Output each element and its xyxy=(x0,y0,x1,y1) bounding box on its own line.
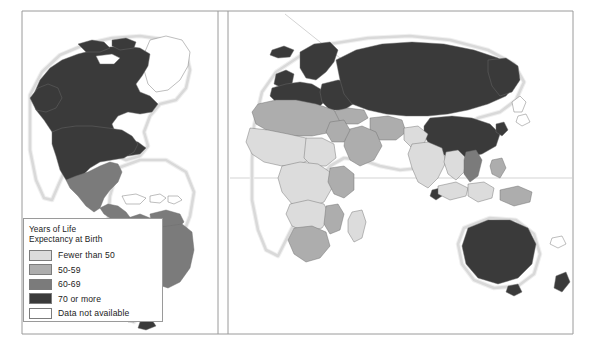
legend-swatch-70plus xyxy=(29,293,52,304)
legend-label-nodata: Data not available xyxy=(58,308,130,318)
legend-item-70plus: 70 or more xyxy=(29,292,158,307)
legend-item-nodata: Data not available xyxy=(29,306,158,321)
legend-label-60-69: 60-69 xyxy=(58,279,81,289)
legend-item-50-59: 50-59 xyxy=(29,263,158,278)
legend-label-50-59: 50-59 xyxy=(58,265,81,275)
world-map-figure: Years of Life Expectancy at Birth Fewer … xyxy=(0,0,595,345)
legend-title: Years of Life Expectancy at Birth xyxy=(29,224,158,244)
legend-item-under50: Fewer than 50 xyxy=(29,248,158,263)
legend-swatch-60-69 xyxy=(29,279,52,290)
legend-label-70plus: 70 or more xyxy=(58,294,101,304)
legend-swatch-50-59 xyxy=(29,264,52,275)
legend-label-under50: Fewer than 50 xyxy=(58,250,115,260)
legend-swatch-under50 xyxy=(29,250,52,261)
map-legend: Years of Life Expectancy at Birth Fewer … xyxy=(23,218,163,322)
legend-item-60-69: 60-69 xyxy=(29,277,158,292)
legend-swatch-nodata xyxy=(29,308,52,319)
